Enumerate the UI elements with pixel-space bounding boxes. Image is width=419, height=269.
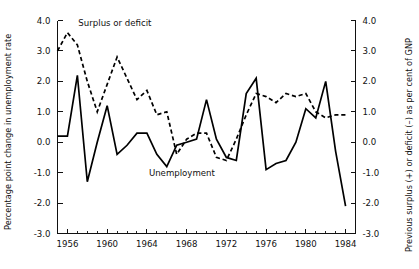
- series-line-surplus-or-deficit: [58, 33, 346, 161]
- x-tick-label: 1972: [215, 239, 237, 249]
- x-tick-label: 1964: [136, 239, 158, 249]
- right-tick-label: 4.0: [363, 16, 377, 26]
- x-tick-label: 1960: [96, 239, 118, 249]
- right-axis-title: Previous surplus (+) or deficit (–) as p…: [404, 38, 414, 252]
- left-axis-title: Percentage point change in unemployment …: [3, 34, 13, 230]
- left-tick-label: 0.0: [37, 137, 51, 147]
- left-tick-label: -2.0: [34, 198, 51, 208]
- right-tick-label: -1.0: [363, 168, 380, 178]
- x-axis-tick-labels: 19561960196419681972197619801984: [56, 239, 356, 249]
- right-axis-title-group: Previous surplus (+) or deficit (–) as p…: [404, 38, 414, 252]
- left-axis-title-group: Percentage point change in unemployment …: [3, 34, 13, 230]
- right-tick-label: -3.0: [363, 229, 380, 239]
- right-tick-label: -2.0: [363, 198, 380, 208]
- x-tick-label: 1956: [56, 239, 78, 249]
- left-tick-label: -3.0: [34, 229, 51, 239]
- x-tick-label: 1984: [335, 239, 357, 249]
- economic-indicators-line-chart: Percentage point change in unemployment …: [0, 0, 419, 269]
- left-tick-label: 3.0: [37, 46, 51, 56]
- right-tick-label: 2.0: [363, 76, 377, 86]
- left-tick-label: 4.0: [37, 16, 51, 26]
- data-series-group: [58, 33, 346, 206]
- x-tick-label: 1976: [255, 239, 277, 249]
- left-axis-tick-labels: 4.03.02.01.00.0-1.0-2.0-3.0: [34, 16, 51, 239]
- right-tick-label: 3.0: [363, 46, 377, 56]
- left-tick-label: 2.0: [37, 76, 51, 86]
- annotation-label: Surplus or deficit: [78, 18, 152, 28]
- right-axis-tick-labels: 4.03.02.01.00.0-1.0-2.0-3.0: [363, 16, 380, 239]
- right-tick-label: 1.0: [363, 107, 377, 117]
- x-tick-label: 1968: [176, 239, 198, 249]
- x-tick-label: 1980: [295, 239, 317, 249]
- right-tick-label: 0.0: [363, 137, 377, 147]
- chart-container: Percentage point change in unemployment …: [0, 0, 419, 269]
- left-tick-label: -1.0: [34, 168, 51, 178]
- left-tick-label: 1.0: [37, 107, 51, 117]
- annotation-label: Unemployment: [149, 168, 216, 178]
- series-annotations: Surplus or deficitUnemployment: [78, 18, 215, 178]
